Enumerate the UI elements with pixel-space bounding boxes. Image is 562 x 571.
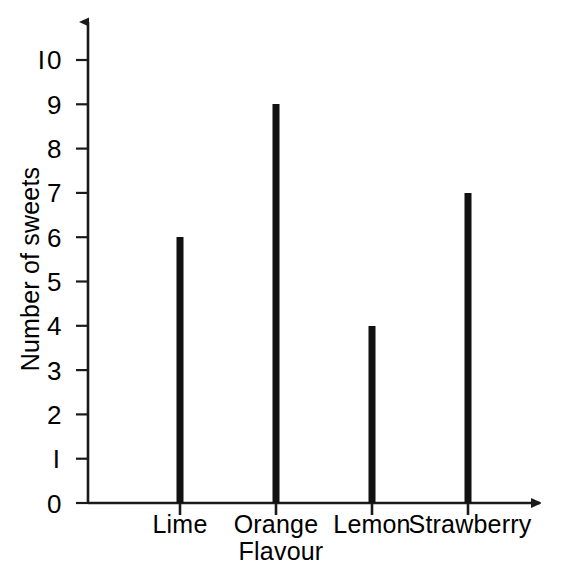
y-tick-label-0: 0	[14, 491, 62, 517]
y-tick-label-7: 7	[14, 180, 62, 206]
y-tick-label-2: 2	[14, 402, 62, 428]
bar-lemon	[369, 326, 376, 503]
y-tick-label-5: 5	[14, 269, 62, 295]
x-tick-label-lime: Lime	[153, 512, 208, 537]
y-tick-label-9: 9	[14, 92, 62, 118]
y-tick-label-6: 6	[14, 225, 62, 251]
y-tick-label-1: I	[14, 446, 62, 472]
chart-axes	[0, 0, 562, 571]
bar-strawberry	[465, 193, 472, 503]
x-axis-label: Flavour	[0, 537, 562, 566]
x-tick-label-orange: Orange	[234, 512, 319, 537]
bar-orange	[273, 104, 280, 503]
bar-lime	[177, 237, 184, 503]
x-tick-label-strawberry: Strawberry	[409, 512, 532, 537]
bar-chart: Number of sweets 0 I 2 3 4 5 6 7 8 9 I0 …	[0, 0, 562, 571]
y-tick-label-8: 8	[14, 136, 62, 162]
y-tick-marks	[76, 60, 88, 503]
x-tick-label-lemon: Lemon	[333, 512, 410, 537]
y-tick-label-4: 4	[14, 313, 62, 339]
y-tick-label-3: 3	[14, 358, 62, 384]
y-tick-label-10: I0	[14, 47, 62, 73]
